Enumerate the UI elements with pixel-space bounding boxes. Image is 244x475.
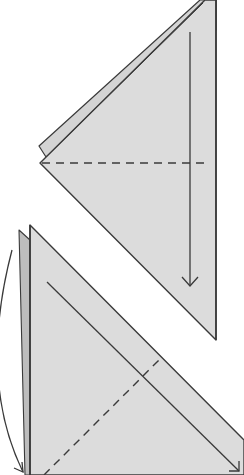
origami-diagram bbox=[0, 0, 244, 475]
curved-arrow-icon bbox=[0, 250, 23, 472]
paper-back-layer bbox=[19, 230, 30, 475]
